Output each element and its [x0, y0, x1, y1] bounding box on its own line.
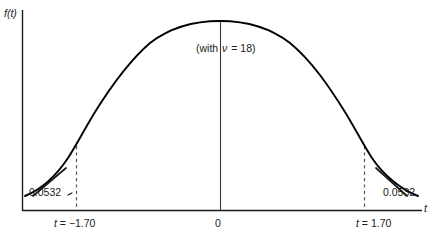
annotation-prefix: (with [196, 42, 218, 54]
degrees-of-freedom-annotation: (with ν = 18) [196, 43, 256, 54]
plot-canvas [0, 0, 433, 236]
annotation-value: = 18) [231, 42, 255, 54]
x-tick-label-left: t = −1.70 [54, 218, 95, 229]
area-left-pointer-icon [68, 193, 72, 195]
right-tail-area-label: 0.0532 [383, 187, 415, 198]
nu-symbol: ν [221, 42, 228, 54]
x-axis-label: t [424, 203, 427, 214]
left-tail-area-label: 0.0532 [29, 187, 61, 198]
x-tick-label-center: 0 [215, 218, 221, 229]
x-tick-label-right: t = 1.70 [356, 218, 391, 229]
t-distribution-figure: f(t) t (with ν = 18) 0.0532 0.0532 t = −… [0, 0, 433, 236]
y-axis-label: f(t) [4, 8, 17, 19]
